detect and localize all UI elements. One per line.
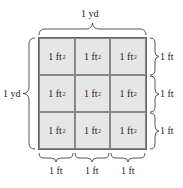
grid-cell: 1 ft2 bbox=[39, 38, 75, 75]
left-dimension-label: 1 yd bbox=[3, 89, 21, 99]
grid-cell: 1 ft2 bbox=[110, 75, 146, 112]
bottom-dimension-label: 1 ft bbox=[85, 166, 99, 176]
grid-cell: 1 ft2 bbox=[39, 112, 75, 149]
right-brace-icon bbox=[150, 76, 159, 112]
right-brace-icon bbox=[150, 38, 159, 75]
top-dimension-label: 1 yd bbox=[81, 9, 99, 19]
right-dimension-label: 1 ft bbox=[160, 89, 174, 99]
grid-cell: 1 ft2 bbox=[39, 75, 75, 112]
grid-cell: 1 ft2 bbox=[110, 38, 146, 75]
bottom-brace-icon bbox=[39, 153, 73, 162]
bottom-brace-icon bbox=[111, 153, 145, 162]
grid-cell: 1 ft2 bbox=[75, 112, 111, 149]
square-yard-grid: 1 ft2 1 ft2 1 ft2 1 ft2 1 ft2 1 ft2 1 ft… bbox=[38, 37, 147, 150]
right-brace-icon bbox=[150, 113, 159, 149]
bottom-dimension-label: 1 ft bbox=[121, 166, 135, 176]
grid-cell: 1 ft2 bbox=[75, 38, 111, 75]
bottom-dimension-label: 1 ft bbox=[49, 166, 63, 176]
grid-cell: 1 ft2 bbox=[110, 112, 146, 149]
right-dimension-label: 1 ft bbox=[160, 52, 174, 62]
bottom-brace-icon bbox=[75, 153, 109, 162]
top-brace-icon bbox=[39, 23, 146, 35]
left-brace-icon bbox=[23, 38, 35, 149]
grid-cell: 1 ft2 bbox=[75, 75, 111, 112]
right-dimension-label: 1 ft bbox=[160, 126, 174, 136]
